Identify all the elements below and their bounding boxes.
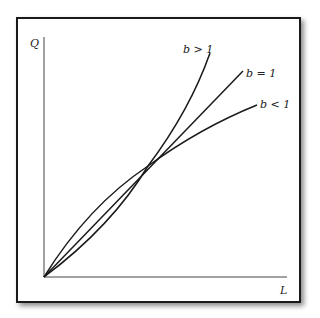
l-axis-label: L (279, 284, 287, 297)
curve-b-greater-1 (44, 53, 210, 277)
line-b-equal-1 (44, 71, 243, 277)
label-b-less-1: b < 1 (260, 98, 290, 111)
production-function-diagram: Q L b > 1 b = 1 b < 1 (0, 0, 320, 318)
label-b-greater-1: b > 1 (183, 43, 213, 56)
q-axis-label: Q (30, 37, 39, 50)
label-b-equal-1: b = 1 (246, 67, 276, 80)
